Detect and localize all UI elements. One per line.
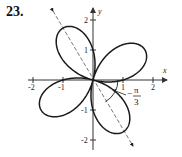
x-axis-label: x xyxy=(162,66,167,75)
svg-text:π: π xyxy=(134,85,139,95)
x-tick-label: -2 xyxy=(28,83,35,92)
x-tick-label: 2 xyxy=(151,83,155,92)
svg-text:3: 3 xyxy=(134,97,139,107)
svg-text:−: − xyxy=(127,88,132,98)
x-tick-label: 1 xyxy=(121,83,125,92)
y-tick-label: 1 xyxy=(84,46,88,55)
y-tick-label: -1 xyxy=(81,106,88,115)
y-tick-label: -2 xyxy=(81,136,88,145)
polar-rose-diagram: -2 -1 1 2 x 2 1 -1 -2 y − π 3 xyxy=(0,0,182,157)
x-tick-label: -1 xyxy=(58,83,65,92)
angle-label: − π 3 xyxy=(127,85,141,107)
y-axis-label: y xyxy=(97,7,102,16)
y-tick-label: 2 xyxy=(84,16,88,25)
